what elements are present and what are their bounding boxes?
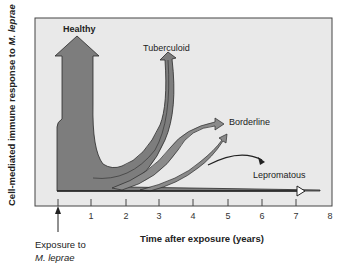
y-axis-label-text: Cell-mediated immune response to [6,46,17,206]
x-tick-7: 7 [293,211,298,221]
exposure-label-line2: M. leprae [35,251,86,264]
diagram-canvas [0,0,349,271]
x-tick-5: 5 [225,211,230,221]
label-borderline: Borderline [229,117,270,127]
label-lepromatous: Lepromatous [253,170,306,180]
exposure-label: Exposure to M. leprae [35,238,86,264]
label-tuberculoid: Tuberculoid [143,43,190,53]
exposure-label-line1: Exposure to [35,238,86,251]
x-tick-3: 3 [156,211,161,221]
y-axis-label-organism: M. leprae [6,4,17,45]
label-healthy: Healthy [63,24,96,34]
x-tick-2: 2 [123,211,128,221]
x-tick-4: 4 [190,211,195,221]
x-tick-1: 1 [88,211,93,221]
immune-response-diagram: Cell-mediated immune response to M. lepr… [0,0,349,271]
exposure-arrowhead [55,206,61,214]
x-axis-label: Time after exposure (years) [140,233,264,244]
y-axis-label: Cell-mediated immune response to M. lepr… [6,16,17,206]
x-tick-8: 8 [327,211,332,221]
x-tick-6: 6 [259,211,264,221]
